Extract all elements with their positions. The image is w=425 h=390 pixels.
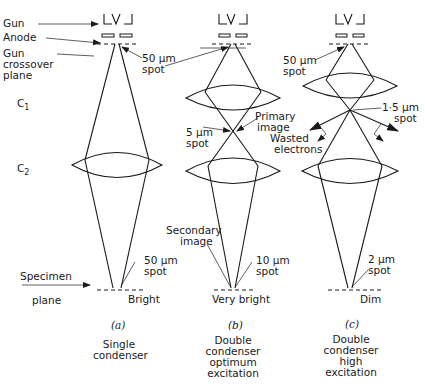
c-letter: (c): [345, 319, 359, 330]
condenser-ray-diagram: [0, 0, 425, 390]
b-intermediate-spot-2: spot: [186, 138, 209, 149]
a-caption-2: condenser: [93, 350, 145, 361]
gun-a: [97, 14, 137, 44]
c-wasted-2: electrons: [274, 144, 322, 155]
crossover-pointer: [57, 54, 94, 56]
c1-label: C1: [17, 98, 29, 113]
b-brightness: Very bright: [212, 294, 270, 305]
c-intermediate-spot-2: spot: [394, 113, 417, 124]
c2-lens-c: [302, 159, 398, 184]
c-final-spot-2: spot: [368, 265, 391, 276]
c1-lens-b: [186, 85, 280, 110]
c2-label: C2: [17, 163, 29, 178]
plane-label: plane: [32, 295, 61, 306]
gun-label: Gun: [3, 18, 24, 29]
b-caption-4: excitation: [203, 368, 263, 379]
specimen-label: Specimen: [20, 271, 72, 282]
c1-lens-c: [303, 73, 397, 98]
c-brightness: Dim: [360, 294, 381, 305]
anode-label: Anode: [3, 32, 36, 43]
b-final-spot-2: spot: [256, 266, 279, 277]
a-brightness: Bright: [128, 294, 160, 305]
c-source-spot-2: spot: [283, 66, 306, 77]
gun-c: [329, 14, 369, 44]
a-final-spot-2: spot: [144, 266, 167, 277]
c2-lens-b: [186, 158, 280, 184]
anode-pointer: [46, 38, 100, 43]
c-caption-4: excitation: [321, 367, 381, 378]
a-letter: (a): [111, 320, 125, 331]
gun-b: [212, 14, 252, 44]
b-letter: (b): [228, 320, 243, 331]
a-source-spot-2: spot: [142, 64, 165, 75]
crossover-label-3: plane: [3, 70, 32, 81]
b-secondary-image-2: image: [180, 236, 213, 247]
